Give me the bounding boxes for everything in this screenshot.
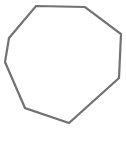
octagon-shape — [5, 6, 121, 123]
polygon-canvas — [0, 0, 126, 150]
